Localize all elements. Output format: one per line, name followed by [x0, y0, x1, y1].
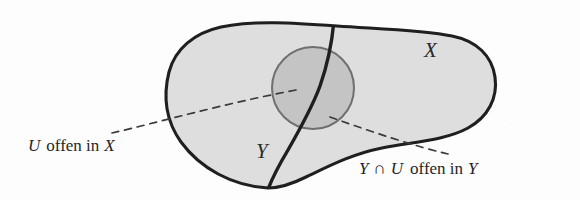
- topology-diagram-canvas: [0, 0, 580, 200]
- figure-root: X Y Uoffen inX Y∩Uoffen inY: [0, 0, 580, 200]
